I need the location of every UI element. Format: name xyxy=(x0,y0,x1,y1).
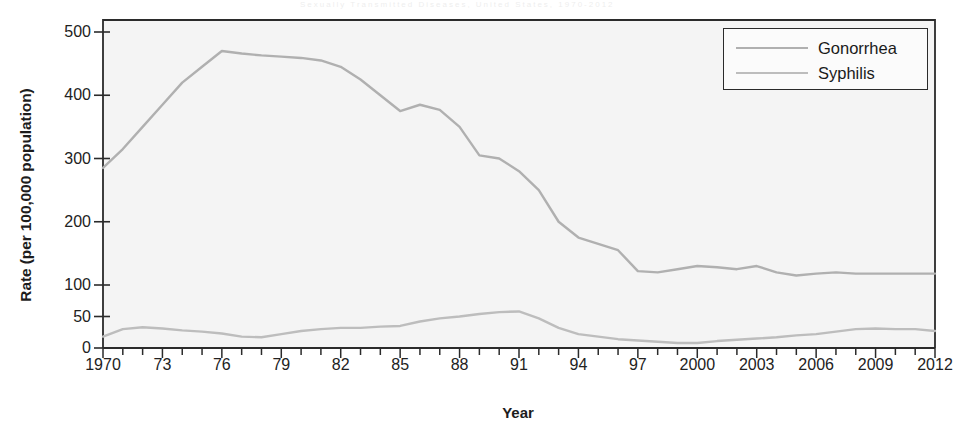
legend-label-gonorrhea: Gonorrhea xyxy=(818,40,897,57)
y-tick-label: 400 xyxy=(29,86,91,104)
chart-figure: Sexually Transmitted Diseases, United St… xyxy=(0,0,976,446)
x-axis-title: Year xyxy=(0,404,976,421)
y-tick-label: 500 xyxy=(29,23,91,41)
x-tick-label: 88 xyxy=(451,356,469,374)
x-tick-label: 2003 xyxy=(739,356,775,374)
x-tick-label: 1970 xyxy=(85,356,121,374)
legend-entry-gonorrhea: Gonorrhea xyxy=(736,35,897,61)
x-tick-label: 2006 xyxy=(798,356,834,374)
legend-entry-syphilis: Syphilis xyxy=(736,60,875,86)
x-tick-label: 94 xyxy=(570,356,588,374)
legend-swatch-syphilis xyxy=(736,72,808,75)
x-tick-label: 91 xyxy=(510,356,528,374)
x-tick-label: 76 xyxy=(213,356,231,374)
chart-legend: Gonorrhea Syphilis xyxy=(723,28,928,90)
x-tick-label: 73 xyxy=(154,356,172,374)
y-tick-label: 100 xyxy=(29,276,91,294)
x-tick-label: 85 xyxy=(391,356,409,374)
x-tick-label: 2009 xyxy=(858,356,894,374)
y-tick-label: 200 xyxy=(29,213,91,231)
legend-label-syphilis: Syphilis xyxy=(818,65,875,82)
x-tick-label: 82 xyxy=(332,356,350,374)
x-tick-label: 79 xyxy=(272,356,290,374)
y-tick-label: 0 xyxy=(29,339,91,357)
y-tick-label: 300 xyxy=(29,150,91,168)
x-tick-label: 97 xyxy=(629,356,647,374)
legend-swatch-gonorrhea xyxy=(736,47,808,50)
y-tick-label: 50 xyxy=(29,308,91,326)
x-tick-label: 2012 xyxy=(917,356,953,374)
x-tick-label: 2000 xyxy=(679,356,715,374)
